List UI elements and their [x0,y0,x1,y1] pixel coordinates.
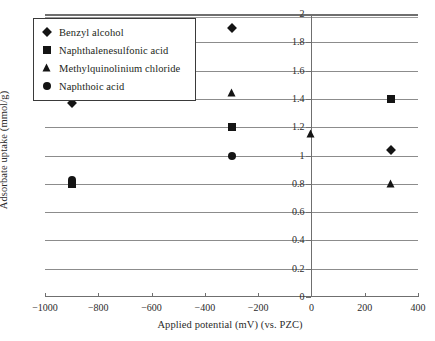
diamond-marker-icon [227,23,237,33]
square-marker-icon [228,123,236,131]
diamond-marker-icon [42,27,52,37]
square-marker-icon [387,95,395,103]
x-axis-line [45,296,418,297]
y-axis-title: Adsorbate uptake (mmol/g) [0,0,14,300]
y-axis-tick-label: 1.4 [271,94,304,104]
circle-marker-icon [68,176,76,184]
legend-item: Benzyl alcohol [40,23,189,41]
y-axis-tick-label: 0.6 [271,207,304,217]
legend-item: Methylquinolinium chloride [40,59,189,77]
legend-marker [40,25,54,39]
legend-label: Methylquinolinium chloride [59,63,180,74]
legend-label: Benzyl alcohol [59,27,124,38]
circle-marker-icon [228,152,236,160]
square-marker-icon [43,46,51,54]
triangle-marker-icon [43,64,51,72]
y-axis-tick-label: 0.2 [271,264,304,274]
legend-marker [40,61,54,75]
x-axis-tick-label: −200 [228,303,288,313]
y-axis-tick-label: 2 [271,9,304,19]
gridline [45,240,418,241]
x-axis-tick-label: 200 [335,303,395,313]
y-axis-tick-label: 1.2 [271,122,304,132]
legend-label: Naphthoic acid [59,81,124,92]
legend-marker [40,43,54,57]
x-axis-tick-label: −800 [68,303,128,313]
legend-label: Naphthalenesulfonic acid [59,45,168,56]
x-axis-tick-label: −1000 [15,303,75,313]
legend-item: Naphthalenesulfonic acid [40,41,189,59]
y-axis-tick-label: 1 [271,151,304,161]
x-axis-tick-label: 400 [388,303,435,313]
y-axis-line [311,14,312,297]
y-axis-tick-label: 0.4 [271,235,304,245]
diamond-marker-icon [386,145,396,155]
x-axis-tick-label: 0 [281,303,341,313]
gridline [45,212,418,213]
circle-marker-icon [43,82,51,90]
x-axis-tick-label: −600 [122,303,182,313]
y-axis-tick-label: 1.8 [271,37,304,47]
x-axis-title: Applied potential (mV) (vs. PZC) [40,319,420,330]
gridline [45,269,418,270]
triangle-marker-icon [387,179,395,187]
y-axis-tick-label: 0 [271,292,304,302]
triangle-marker-icon [227,89,235,97]
triangle-marker-icon [307,130,315,138]
gridline [45,184,418,185]
plot-top-rule [45,14,418,16]
y-axis-tick-label: 1.6 [271,66,304,76]
legend-marker [40,79,54,93]
y-axis-tick-label: 0.8 [271,179,304,189]
legend-item: Naphthoic acid [40,77,189,95]
x-axis-tick-label: −400 [175,303,235,313]
chart-figure: Adsorbate uptake (mmol/g) 00.20.40.60.81… [0,0,435,341]
legend: Benzyl alcoholNaphthalenesulfonic acidMe… [33,18,196,101]
x-axis-tick [418,293,419,297]
y-axis-tick [306,297,311,298]
